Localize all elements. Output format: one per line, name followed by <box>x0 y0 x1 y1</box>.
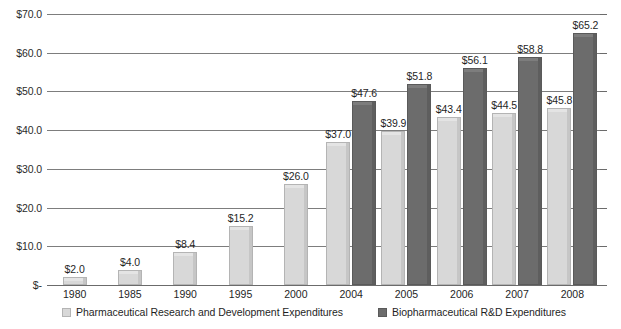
bar-side-shade <box>372 102 375 284</box>
bar-side-shade <box>567 109 570 284</box>
x-axis-tick-label-2006: 2006 <box>450 288 473 300</box>
x-axis-tick-label-2007: 2007 <box>505 288 528 300</box>
bar-value-label: $15.2 <box>228 212 254 224</box>
bar-value-label: $37.0 <box>325 128 351 140</box>
bar-2007-series2 <box>518 57 542 285</box>
bar-1995-series1 <box>229 226 253 285</box>
bar-2008-series2 <box>573 33 597 285</box>
bar-value-label: $45.8 <box>546 94 572 106</box>
y-axis-tick-mark <box>600 285 607 286</box>
bar-side-shade <box>193 253 196 284</box>
gridline <box>47 14 600 15</box>
bar-side-shade <box>593 34 596 284</box>
bar-value-label: $26.0 <box>283 170 309 182</box>
bar-1980-series1 <box>63 277 87 285</box>
bar-2004-series2 <box>352 101 376 285</box>
x-axis-tick-label-1990: 1990 <box>174 288 197 300</box>
gridline <box>47 208 600 209</box>
bar-side-shade <box>83 278 86 284</box>
bar-side-shade <box>512 114 515 284</box>
x-axis: 1980198519901995200020042005200620072008 <box>47 288 600 304</box>
bar-2007-series1 <box>492 113 516 285</box>
gridline <box>47 91 600 92</box>
x-axis-tick-label-1985: 1985 <box>118 288 141 300</box>
bar-2004-series1 <box>326 142 350 285</box>
bar-side-shade <box>483 69 486 284</box>
bar-1985-series1 <box>118 270 142 285</box>
y-axis-tick-mark <box>600 208 607 209</box>
bar-chart: $70.0$60.0$50.0$40.0$30.0$20.0$10.0$- $2… <box>0 0 621 329</box>
bar-2000-series1 <box>284 184 308 285</box>
gridline <box>47 169 600 170</box>
legend-item-2[interactable]: Biopharmaceutical R&D Expenditures <box>378 306 566 318</box>
y-axis: $70.0$60.0$50.0$40.0$30.0$20.0$10.0$- <box>0 14 42 285</box>
gridline <box>47 285 600 286</box>
x-axis-tick-label-2005: 2005 <box>395 288 418 300</box>
x-axis-tick-label-2008: 2008 <box>561 288 584 300</box>
bar-value-label: $51.8 <box>407 70 433 82</box>
x-axis-tick-label-2000: 2000 <box>284 288 307 300</box>
bar-2005-series1 <box>381 131 405 285</box>
legend-label: Pharmaceutical Research and Development … <box>76 306 343 318</box>
bar-value-label: $4.0 <box>120 256 140 268</box>
gridline <box>47 130 600 131</box>
y-axis-tick-label: $70.0 <box>16 8 42 20</box>
bar-2005-series2 <box>407 84 431 285</box>
y-axis-tick-mark <box>600 169 607 170</box>
bar-1990-series1 <box>173 252 197 285</box>
bar-value-label: $65.2 <box>572 19 598 31</box>
bar-side-shade <box>249 227 252 284</box>
bar-value-label: $8.4 <box>175 238 195 250</box>
y-axis-tick-label: $40.0 <box>16 124 42 136</box>
bar-value-label: $58.8 <box>517 43 543 55</box>
x-axis-tick-label-1980: 1980 <box>63 288 86 300</box>
bar-side-shade <box>304 185 307 284</box>
bar-value-label: $39.9 <box>381 117 407 129</box>
bar-value-label: $43.4 <box>436 103 462 115</box>
chart-legend: Pharmaceutical Research and Development … <box>0 306 621 322</box>
bar-side-shade <box>346 143 349 284</box>
y-axis-tick-label: $30.0 <box>16 163 42 175</box>
y-axis-tick-label: $50.0 <box>16 85 42 97</box>
bar-value-label: $2.0 <box>65 263 85 275</box>
x-axis-tick-label-1995: 1995 <box>229 288 252 300</box>
bar-value-label: $56.1 <box>462 54 488 66</box>
bar-value-label: $47.6 <box>351 87 377 99</box>
y-axis-tick-mark <box>600 246 607 247</box>
bar-side-shade <box>401 132 404 284</box>
bar-side-shade <box>138 271 141 284</box>
y-axis-tick-label: $10.0 <box>16 240 42 252</box>
plot-area: $2.0$4.0$8.4$15.2$26.0$37.0$47.6$39.9$51… <box>47 14 600 285</box>
bar-2006-series1 <box>437 117 461 285</box>
bar-2006-series2 <box>463 68 487 285</box>
bar-value-label: $44.5 <box>491 99 517 111</box>
y-axis-tick-label: $- <box>33 279 42 291</box>
y-axis-tick-label: $60.0 <box>16 47 42 59</box>
bar-side-shade <box>457 118 460 284</box>
bar-2008-series1 <box>547 108 571 285</box>
y-axis-tick-mark <box>600 91 607 92</box>
legend-item-1[interactable]: Pharmaceutical Research and Development … <box>62 306 343 318</box>
legend-swatch-icon <box>62 308 71 317</box>
y-axis-tick-label: $20.0 <box>16 202 42 214</box>
legend-swatch-icon <box>378 308 387 317</box>
y-axis-tick-mark <box>600 14 607 15</box>
bar-side-shade <box>538 58 541 284</box>
bar-side-shade <box>427 85 430 284</box>
y-axis-tick-mark <box>600 130 607 131</box>
gridline <box>47 246 600 247</box>
legend-label: Biopharmaceutical R&D Expenditures <box>392 306 566 318</box>
y-axis-tick-mark <box>600 53 607 54</box>
x-axis-tick-label-2004: 2004 <box>339 288 362 300</box>
